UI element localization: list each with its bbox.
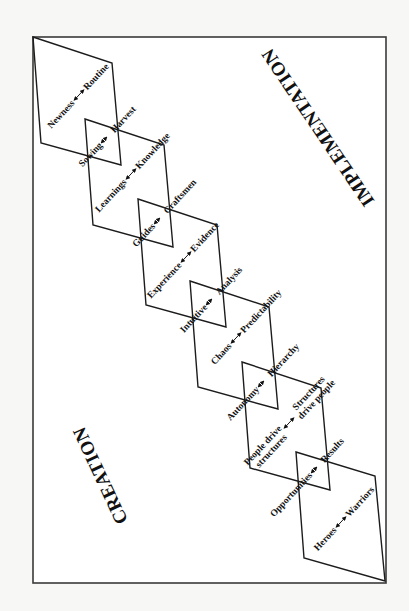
creation-implementation-diagram: IMPLEMENTATION CREATION Newness Routine …	[0, 0, 409, 611]
